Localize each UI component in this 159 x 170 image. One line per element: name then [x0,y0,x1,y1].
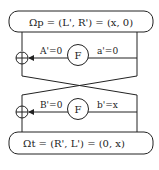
output-diff-label: A'=0 [39,46,63,56]
input-diff-label: a'=0 [97,46,118,56]
round-1: F A'=0 a'=0 [16,32,137,76]
input-diff-label: b'=x [97,100,118,110]
top-box-label: Ωp = (L', R') = (x, 0) [29,17,133,28]
top-characteristic-box: Ωp = (L', R') = (x, 0) [9,11,153,32]
round-2: F B'=0 b'=x [16,95,137,134]
xor-icon [16,106,28,118]
output-diff-label: B'=0 [40,100,63,110]
xor-icon [16,52,28,64]
bottom-characteristic-box: Ωt = (R', L') = (0, x) [9,132,153,154]
svg-text:F: F [75,104,82,115]
feistel-diagram: Ωp = (L', R') = (x, 0) F A'=0 a'=0 [0,0,159,170]
bottom-box-label: Ωt = (R', L') = (0, x) [23,138,125,149]
svg-text:F: F [75,50,82,61]
f-function-node: F [68,45,89,66]
f-function-node: F [68,99,89,120]
